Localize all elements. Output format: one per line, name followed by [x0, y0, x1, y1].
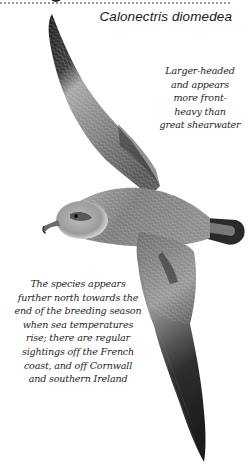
- note-line: heavy than: [148, 105, 250, 119]
- illustration-plate: Calonectris diomedea Larger-headed and a…: [0, 0, 250, 464]
- note-head-shape: Larger-headed and appears more front- he…: [148, 64, 250, 132]
- note-line: coast, and off Cornwall: [8, 359, 148, 373]
- note-line: when sea temperatures: [8, 318, 148, 332]
- note-line: end of the breeding season: [8, 304, 148, 318]
- note-line: rise; there are regular: [8, 331, 148, 345]
- note-line: great shearwater: [148, 118, 250, 132]
- eye-icon: [74, 214, 78, 218]
- tail: [204, 218, 245, 245]
- bill: [43, 220, 60, 232]
- note-line: and appears: [148, 78, 250, 92]
- note-line: Larger-headed: [148, 64, 250, 78]
- head: [43, 201, 108, 239]
- note-range: The species appears further north toward…: [8, 277, 148, 386]
- upper-wing: [49, 14, 160, 196]
- note-line: and southern Ireland: [8, 372, 148, 386]
- note-line: sightings off the French: [8, 345, 148, 359]
- note-line: further north towards the: [8, 291, 148, 305]
- note-line: more front-: [148, 91, 250, 105]
- note-line: The species appears: [8, 277, 148, 291]
- species-title: Calonectris diomedea: [99, 9, 232, 24]
